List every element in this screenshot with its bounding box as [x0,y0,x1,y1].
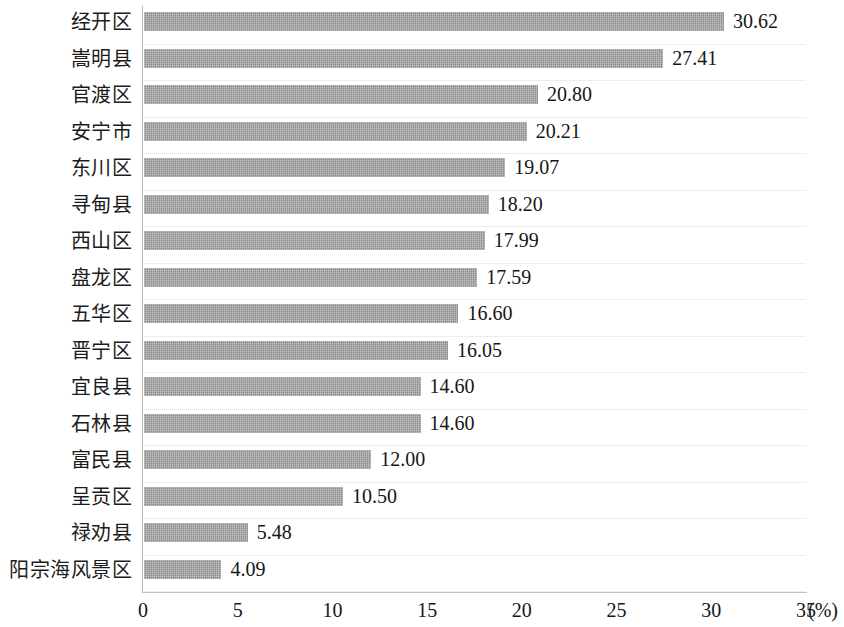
category-label: 呈贡区 [71,487,133,507]
chart-row: 官渡区20.80 [143,81,806,118]
chart-row: 石林县14.60 [143,410,806,447]
category-label: 石林县 [71,414,133,434]
bar [144,560,221,579]
bar-value-label: 10.50 [352,487,397,506]
category-label: 盘龙区 [71,268,133,288]
bar-value-label: 17.59 [486,268,531,287]
bar [144,268,477,287]
category-label: 五华区 [71,304,133,324]
chart-row: 晋宁区16.05 [143,337,806,374]
category-label: 东川区 [71,158,133,178]
category-label: 安宁市 [71,122,133,142]
bar-value-label: 12.00 [380,450,425,469]
bar [144,487,343,506]
x-axis-tick-label: 25 [607,600,627,620]
bar [144,304,458,323]
x-axis-tick-label: 0 [138,600,148,620]
x-axis-unit-label: (%) [808,600,838,620]
bar-chart: 经开区30.62嵩明县27.41官渡区20.80安宁市20.21东川区19.07… [0,0,844,627]
bar-value-label: 16.60 [467,304,512,323]
bar [144,377,421,396]
bar [144,195,489,214]
bar [144,414,421,433]
bar-value-label: 20.21 [536,122,581,141]
category-label: 嵩明县 [71,49,133,69]
bar-value-label: 19.07 [514,158,559,177]
bar-value-label: 20.80 [547,85,592,104]
x-axis-tick-label: 10 [322,600,342,620]
bar [144,341,448,360]
bar [144,122,527,141]
category-label: 西山区 [71,231,133,251]
category-label: 禄劝县 [71,523,133,543]
bar-value-label: 27.41 [672,49,717,68]
chart-row: 安宁市20.21 [143,118,806,155]
category-label: 富民县 [71,450,133,470]
bar-value-label: 4.09 [230,560,265,579]
chart-row: 寻甸县18.20 [143,191,806,228]
bar [144,85,538,104]
bar-value-label: 18.20 [498,195,543,214]
bar [144,231,485,250]
bar [144,158,505,177]
chart-row: 五华区16.60 [143,300,806,337]
bar-value-label: 16.05 [457,341,502,360]
category-label: 晋宁区 [71,341,133,361]
bar [144,12,724,31]
bar-value-label: 14.60 [430,414,475,433]
chart-row: 经开区30.62 [143,8,806,45]
chart-row: 西山区17.99 [143,227,806,264]
plot-area: 经开区30.62嵩明县27.41官渡区20.80安宁市20.21东川区19.07… [143,8,806,592]
x-axis-tick-label: 15 [417,600,437,620]
bar [144,523,248,542]
category-label: 阳宗海风景区 [9,560,132,580]
chart-row: 宜良县14.60 [143,373,806,410]
x-axis-tick-label: 5 [233,600,243,620]
bar [144,49,663,68]
category-label: 官渡区 [71,85,133,105]
chart-row: 嵩明县27.41 [143,45,806,82]
x-axis-tick-label: 20 [512,600,532,620]
chart-row: 东川区19.07 [143,154,806,191]
chart-row: 阳宗海风景区4.09 [143,556,806,593]
category-label: 经开区 [71,12,133,32]
bar-value-label: 14.60 [430,377,475,396]
bar [144,450,371,469]
chart-row: 禄劝县5.48 [143,519,806,556]
x-axis-line [142,592,807,593]
chart-row: 盘龙区17.59 [143,264,806,301]
gridline [143,591,806,592]
chart-row: 呈贡区10.50 [143,483,806,520]
bar-value-label: 5.48 [257,523,292,542]
bar-value-label: 17.99 [494,231,539,250]
category-label: 寻甸县 [71,195,133,215]
x-axis-tick-label: 30 [701,600,721,620]
category-label: 宜良县 [71,377,133,397]
bar-value-label: 30.62 [733,12,778,31]
chart-row: 富民县12.00 [143,446,806,483]
